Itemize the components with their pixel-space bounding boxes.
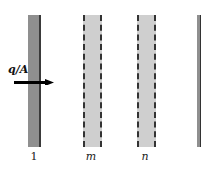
heat-flux-arrow-icon	[14, 79, 54, 85]
wall-label-n: n	[135, 150, 155, 163]
wall-label-m: m	[81, 150, 101, 163]
wall-label-1: 1	[24, 150, 44, 163]
wall-m	[83, 15, 102, 147]
flux-label: q/A	[8, 63, 28, 76]
wall-right	[197, 15, 201, 147]
wall-n	[137, 15, 156, 147]
